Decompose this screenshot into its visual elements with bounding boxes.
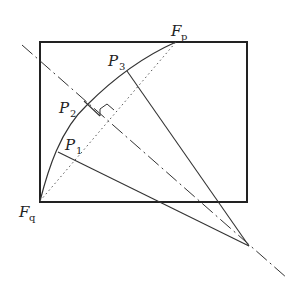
svg-text:3: 3 <box>119 61 125 72</box>
ray-P3-vertex <box>127 71 249 246</box>
label-P2: P 2 <box>58 99 76 119</box>
svg-text:P: P <box>107 52 119 70</box>
svg-text:P: P <box>58 99 70 117</box>
svg-text:P: P <box>64 136 76 154</box>
geometry-diagram: F p F q P 1 P 2 P 3 <box>0 0 306 295</box>
ray-P1-vertex <box>58 152 249 246</box>
segment-P2-axis <box>84 101 100 116</box>
svg-text:1: 1 <box>76 145 82 156</box>
label-Fq: F q <box>18 203 36 223</box>
svg-text:2: 2 <box>70 108 76 119</box>
svg-text:q: q <box>29 212 36 223</box>
label-P1: P 1 <box>64 136 82 156</box>
label-P3: P 3 <box>107 52 125 72</box>
right-angle-mark <box>100 104 114 116</box>
bounding-rectangle <box>40 42 247 202</box>
label-Fp: F p <box>170 22 187 42</box>
svg-text:p: p <box>181 31 187 42</box>
